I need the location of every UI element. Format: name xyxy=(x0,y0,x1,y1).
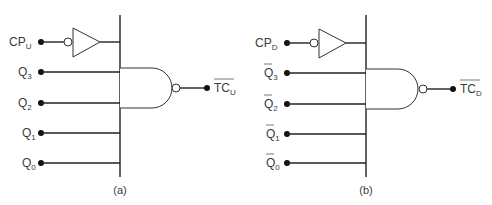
input-q2-bar: Q2 xyxy=(264,95,366,113)
panel-a: CPU Q3 Q2 Q1 Q0 TCU (a) xyxy=(9,15,236,196)
input-q0-bar: Q0 xyxy=(266,154,366,172)
buffer-triangle-icon xyxy=(319,29,346,58)
output-terminal xyxy=(450,86,456,92)
output-label: TCU xyxy=(214,81,236,97)
clock-label: CPD xyxy=(255,36,278,52)
input-q3: Q3 xyxy=(18,65,120,81)
svg-text:Q0: Q0 xyxy=(22,156,36,172)
inverter-bubble-icon xyxy=(64,38,72,46)
output-label: TCD xyxy=(460,82,482,98)
svg-text:Q1: Q1 xyxy=(22,126,36,142)
buffer-triangle-icon xyxy=(73,28,100,57)
svg-text:Q2: Q2 xyxy=(18,96,32,112)
output-bubble-icon xyxy=(419,85,427,93)
nand-gate-icon xyxy=(120,68,172,108)
input-q1-bar: Q1 xyxy=(266,125,366,143)
svg-text:Q1: Q1 xyxy=(266,127,280,143)
panel-b: CPD Q3 Q2 Q1 Q0 TCD xyxy=(255,15,482,196)
input-q3-bar: Q3 xyxy=(264,64,366,82)
terminal-count-diagram: CPU Q3 Q2 Q1 Q0 TCU (a) xyxy=(0,0,492,205)
caption-a: (a) xyxy=(113,184,126,196)
svg-text:Q2: Q2 xyxy=(264,97,278,113)
svg-text:Q3: Q3 xyxy=(264,66,278,82)
input-q0: Q0 xyxy=(22,156,120,172)
nand-gate-icon xyxy=(366,69,418,109)
output-terminal xyxy=(204,85,210,91)
input-q1: Q1 xyxy=(22,126,120,142)
caption-b: (b) xyxy=(359,184,372,196)
svg-text:Q3: Q3 xyxy=(18,65,32,81)
output-bubble-icon xyxy=(172,84,180,92)
inverter-bubble-icon xyxy=(310,39,318,47)
svg-text:Q0: Q0 xyxy=(266,156,280,172)
input-q2: Q2 xyxy=(18,96,120,112)
clock-label: CPU xyxy=(9,35,32,51)
